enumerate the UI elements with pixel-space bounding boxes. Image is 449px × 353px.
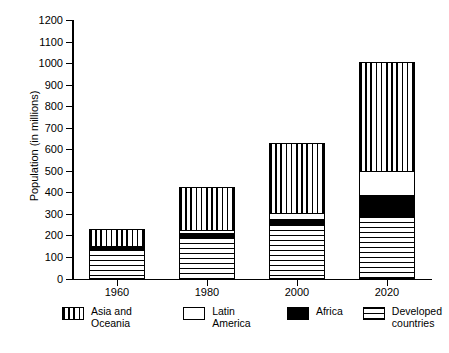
y-axis-tick [66,257,72,258]
bar-segment-asia-and-oceania [180,188,234,232]
legend-label-asia-and-oceania: Asia and Oceania [91,306,163,329]
legend-swatch-vertical-lines-icon [62,307,84,320]
y-axis-tick [66,106,72,107]
y-axis-tick [66,192,72,193]
bar-1980 [179,187,235,279]
legend-swatch-black-icon [287,307,309,320]
x-axis-line [72,279,432,281]
bar-segment-latin-america [360,172,414,196]
y-axis-tick [66,171,72,172]
y-axis-tick-label: 600 [45,144,63,155]
y-axis-tick-label: 800 [45,101,63,112]
x-axis-tick-label-2000: 2000 [252,286,342,298]
y-axis-line [72,20,74,280]
stacked-bar-chart: Population (in millions) 010020030040050… [0,0,449,353]
legend-label-africa: Africa [316,306,343,318]
bar-1960 [89,229,145,279]
x-axis-tick-label-2020: 2020 [342,286,432,298]
y-axis-tick-label: 200 [45,230,63,241]
legend-item-asia-and-oceania: Asia and Oceania [62,306,163,329]
legend-item-developed-countries: Developed countries [363,306,442,329]
y-axis-tick [66,42,72,43]
y-axis-tick-label: 1000 [39,58,63,69]
y-axis-tick [66,214,72,215]
legend-swatch-white-icon [183,307,205,320]
y-axis-tick-label: 1100 [39,36,63,47]
bar-segment-developed-countries [90,250,144,278]
bar-segment-asia-and-oceania [270,144,324,213]
y-axis-tick-label: 300 [45,208,63,219]
y-axis-tick-label: 100 [45,251,63,262]
bar-2020 [359,62,415,279]
chart-legend: Asia and Oceania Latin America Africa De… [62,306,442,329]
legend-label-developed-countries: Developed countries [392,306,442,329]
legend-item-africa: Africa [287,306,343,320]
y-axis-title: Population (in millions) [28,56,40,236]
y-axis-tick-label: 1200 [39,15,63,26]
y-axis-tick [66,128,72,129]
bar-segment-developed-countries [360,217,414,277]
y-axis-tick-label: 500 [45,165,63,176]
y-axis-tick [66,85,72,86]
bar-segment-developed-countries [270,225,324,278]
y-axis-tick [66,149,72,150]
y-axis-tick [66,279,72,280]
plot-area: 0100200300400500600700800900100011001200… [72,20,432,280]
y-axis-tick-label: 700 [45,122,63,133]
legend-label-latin-america: Latin America [212,306,267,329]
bar-segment-asia-and-oceania [360,63,414,173]
y-axis-tick-label: 400 [45,187,63,198]
y-axis-tick-label: 900 [45,79,63,90]
y-axis-tick [66,235,72,236]
x-axis-tick-label-1980: 1980 [162,286,252,298]
bar-2000 [269,143,325,278]
x-axis-tick-label-1960: 1960 [72,286,162,298]
legend-swatch-horizontal-lines-icon [363,307,385,320]
y-axis-tick [66,63,72,64]
bar-segment-africa [360,196,414,217]
bar-segment-asia-and-oceania [90,230,144,247]
bar-segment-developed-countries [180,238,234,278]
legend-item-latin-america: Latin America [183,306,267,329]
y-axis-tick-label: 0 [57,273,63,284]
y-axis-tick [66,20,72,21]
